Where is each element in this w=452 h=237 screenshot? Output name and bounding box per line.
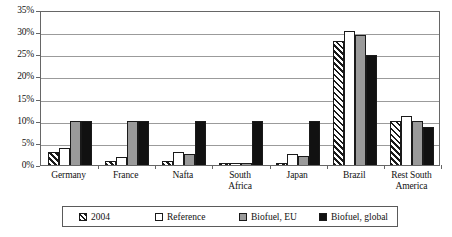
x-axis-label: France	[97, 170, 154, 181]
bar	[390, 121, 401, 165]
bar	[355, 35, 366, 165]
bar	[298, 156, 309, 165]
plot-area	[40, 11, 440, 166]
legend-label: 2004	[91, 212, 110, 222]
bar-group	[98, 12, 155, 165]
bar	[333, 41, 344, 165]
x-axis-label-line: Germany	[40, 170, 97, 181]
legend-label: Reference	[167, 212, 206, 222]
y-axis-tick-label: 35%	[0, 6, 34, 16]
x-axis-label: Rest SouthAmerica	[383, 170, 440, 192]
x-axis-label: SouthAfrica	[211, 170, 268, 192]
bar	[116, 157, 127, 165]
bar	[173, 152, 184, 165]
x-axis-tick-mark	[155, 165, 156, 169]
legend-item: Biofuel, EU	[239, 212, 297, 222]
bar	[138, 121, 149, 165]
bar-group	[155, 12, 212, 165]
legend-swatch-icon	[155, 213, 163, 221]
x-axis-tick-mark	[270, 165, 271, 169]
bar	[230, 163, 241, 165]
x-axis-label: Germany	[40, 170, 97, 181]
bar	[127, 121, 138, 165]
bar	[423, 127, 434, 165]
chart-legend: 2004ReferenceBiofuel, EUBiofuel, global	[62, 206, 398, 227]
legend-item: Biofuel, global	[319, 212, 388, 222]
legend-swatch-icon	[79, 213, 87, 221]
bar	[219, 163, 230, 165]
y-axis-tick-label: 15%	[0, 95, 34, 105]
y-axis-tick-label: 0%	[0, 161, 34, 171]
x-axis-label: Nafta	[154, 170, 211, 181]
legend-swatch-icon	[239, 213, 247, 221]
bar	[81, 121, 92, 165]
x-axis-label-line: Nafta	[154, 170, 211, 181]
bar	[287, 154, 298, 165]
x-axis-label-line: Japan	[269, 170, 326, 181]
y-axis-tick-label: 5%	[0, 139, 34, 149]
legend-label: Biofuel, EU	[251, 212, 297, 222]
bar-group	[327, 12, 384, 165]
x-axis-label: Japan	[269, 170, 326, 181]
x-axis-label-line: France	[97, 170, 154, 181]
bar	[162, 161, 173, 165]
x-axis-label-line: South	[211, 170, 268, 181]
bar-group	[270, 12, 327, 165]
x-axis-tick-mark	[327, 165, 328, 169]
x-axis-label-line: America	[383, 181, 440, 192]
legend-swatch-icon	[319, 213, 327, 221]
bar	[48, 152, 59, 165]
legend-item: Reference	[155, 212, 206, 222]
bar	[195, 121, 206, 165]
bar	[70, 121, 81, 165]
x-axis-label-line: Africa	[211, 181, 268, 192]
x-axis-tick-mark	[98, 165, 99, 169]
y-axis-tick-mark	[36, 166, 40, 167]
bar-group	[212, 12, 269, 165]
x-axis-label-line: Brazil	[326, 170, 383, 181]
bar	[184, 154, 195, 165]
y-axis-tick-label: 20%	[0, 72, 34, 82]
bar	[366, 55, 377, 165]
bar	[59, 148, 70, 165]
y-axis-tick-label: 30%	[0, 28, 34, 38]
bar-chart: 0%5%10%15%20%25%30%35% GermanyFranceNaft…	[0, 0, 452, 237]
x-axis-label: Brazil	[326, 170, 383, 181]
y-axis-tick-label: 25%	[0, 50, 34, 60]
legend-item: 2004	[79, 212, 110, 222]
bar	[276, 163, 287, 165]
bar	[412, 121, 423, 165]
x-axis-tick-mark	[212, 165, 213, 169]
x-axis-tick-mark	[441, 165, 442, 169]
legend-label: Biofuel, global	[331, 212, 388, 222]
y-axis-tick-label: 10%	[0, 117, 34, 127]
bar	[401, 116, 412, 165]
bar	[309, 121, 320, 165]
bar	[252, 121, 263, 165]
bar-group	[384, 12, 441, 165]
x-axis-label-line: Rest South	[383, 170, 440, 181]
bar	[344, 31, 355, 165]
bar	[241, 163, 252, 165]
x-axis-tick-mark	[384, 165, 385, 169]
bar	[105, 161, 116, 165]
bar-group	[41, 12, 98, 165]
